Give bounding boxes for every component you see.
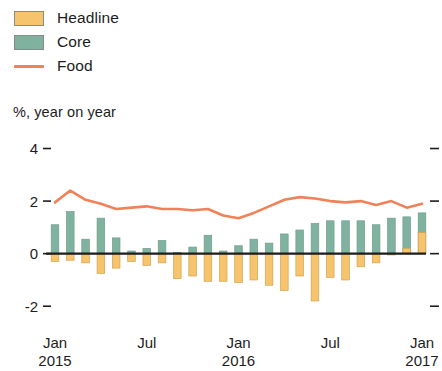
chart-plot-area: 420-2Jan2015JulJan2016JulJan2017 — [0, 0, 442, 371]
headline-bar — [342, 254, 350, 280]
headline-bar — [281, 254, 289, 291]
core-bar — [388, 218, 396, 253]
headline-bar — [372, 254, 380, 263]
chart-figure: Headline Core Food %, year on year 420-2… — [0, 0, 442, 371]
core-bar — [51, 225, 59, 254]
y-axis-tick-label: 4 — [30, 140, 38, 157]
x-axis-tick-label-month: Jan — [43, 334, 67, 351]
x-axis-tick-label-month: Jan — [226, 334, 250, 351]
headline-bar — [296, 254, 304, 276]
y-axis-tick-label: 0 — [30, 245, 38, 262]
core-bar — [66, 212, 74, 254]
headline-bar — [174, 254, 182, 279]
core-bar — [296, 230, 304, 254]
core-bar — [97, 218, 105, 253]
headline-bar — [326, 254, 334, 278]
x-axis-tick-label-month: Jul — [321, 334, 340, 351]
headline-bar — [189, 254, 197, 276]
headline-bar — [112, 254, 120, 268]
headline-bar — [311, 254, 319, 301]
core-bar — [281, 234, 289, 254]
headline-bar — [158, 254, 166, 263]
headline-bar — [82, 254, 90, 263]
core-bar — [250, 239, 258, 253]
core-bar — [82, 239, 90, 253]
y-axis-tick-label: 2 — [30, 193, 38, 210]
core-bar — [342, 221, 350, 254]
headline-bar — [143, 254, 151, 266]
x-axis-tick-label-year: 2016 — [222, 352, 255, 369]
core-bar — [311, 223, 319, 253]
headline-bar — [235, 254, 243, 283]
headline-bar — [219, 254, 227, 282]
x-axis-tick-label-year: 2017 — [405, 352, 438, 369]
core-bar — [326, 221, 334, 254]
food-line — [55, 191, 422, 219]
headline-bar — [204, 254, 212, 282]
headline-bar — [357, 254, 365, 267]
y-axis-tick-label: -2 — [25, 298, 38, 315]
headline-bar — [418, 233, 426, 254]
headline-bar — [250, 254, 258, 280]
x-axis-tick-label-month: Jan — [410, 334, 434, 351]
x-axis-tick-label-year: 2015 — [38, 352, 71, 369]
core-bar — [204, 235, 212, 253]
core-bar — [158, 241, 166, 254]
core-bar — [112, 238, 120, 254]
headline-bar — [265, 254, 273, 286]
core-bar — [372, 225, 380, 254]
x-axis-tick-label-month: Jul — [137, 334, 156, 351]
core-bar — [357, 221, 365, 254]
core-bar — [265, 243, 273, 254]
headline-bar — [97, 254, 105, 274]
